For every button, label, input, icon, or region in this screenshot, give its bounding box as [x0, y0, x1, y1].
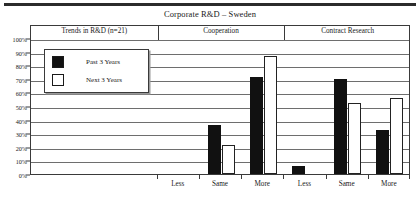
bar-past-same-4: [334, 79, 347, 174]
y-axis: 100%90%80%70%60%50%40%30%20%10%0%: [0, 25, 30, 175]
x-axis-tick-mark: [199, 175, 200, 179]
bar-past-more-5: [376, 130, 389, 174]
x-axis-tick-mark: [409, 175, 410, 179]
x-axis-tick-mark: [283, 175, 284, 179]
x-axis-label-less-0: Less: [171, 180, 184, 188]
x-axis: LessSameMoreLessSameMore: [30, 175, 410, 203]
bar-past-more-2: [250, 77, 263, 174]
legend-swatch-filled: [52, 56, 64, 68]
panel-header-band: Trends in R&D (n=21)CooperationContract …: [31, 26, 409, 40]
top-rule: [4, 3, 416, 6]
chart-figure: Corporate R&D – Sweden 100%90%80%70%60%5…: [0, 0, 420, 203]
bar-next-same-1: [222, 145, 235, 174]
legend-label: Next 3 Years: [86, 76, 122, 84]
chart-title: Corporate R&D – Sweden: [0, 9, 420, 19]
panel-divider: [158, 26, 159, 40]
legend-label: Past 3 Years: [86, 58, 120, 66]
x-axis-label-less-3: Less: [298, 180, 311, 188]
bar-past-less-3: [292, 166, 305, 174]
panel-divider: [284, 26, 285, 40]
bar-next-same-4: [348, 103, 361, 174]
bar-next-more-5: [390, 98, 403, 174]
panel-label-1: Trends in R&D (n=21): [31, 27, 158, 35]
panel-label-2: Cooperation: [158, 27, 285, 35]
x-axis-tick-mark: [368, 175, 369, 179]
panel-label-3: Contract Research: [284, 27, 411, 35]
bar-past-same-1: [208, 125, 221, 174]
y-axis-tick-label: 100%: [13, 36, 27, 43]
legend: Past 3 Years Next 3 Years: [44, 49, 149, 93]
x-axis-label-more-2: More: [254, 180, 270, 188]
legend-swatch-hollow: [52, 74, 64, 86]
x-axis-label-same-1: Same: [212, 180, 228, 188]
x-axis-tick-mark: [241, 175, 242, 179]
x-axis-label-more-5: More: [381, 180, 397, 188]
plot-frame: Trends in R&D (n=21)CooperationContract …: [30, 25, 410, 175]
x-axis-tick-mark: [326, 175, 327, 179]
legend-item-past: Past 3 Years: [52, 56, 120, 68]
x-axis-label-same-4: Same: [339, 180, 355, 188]
x-axis-tick-mark: [157, 175, 158, 179]
bar-next-more-2: [264, 56, 277, 174]
legend-item-next: Next 3 Years: [52, 74, 122, 86]
